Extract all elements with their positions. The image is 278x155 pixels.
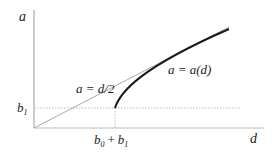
- curve-label: a = a(d): [168, 62, 211, 77]
- diagram: a d a = d/2 a = a(d) b1 b0+b1: [0, 0, 278, 155]
- x-axis-label: d: [250, 131, 258, 146]
- y-axis-label: a: [19, 9, 26, 24]
- ytick-b1: b1: [17, 100, 28, 117]
- line-label: a = d/2: [76, 81, 115, 96]
- xtick-b0-plus-b1: b0+b1: [94, 132, 128, 149]
